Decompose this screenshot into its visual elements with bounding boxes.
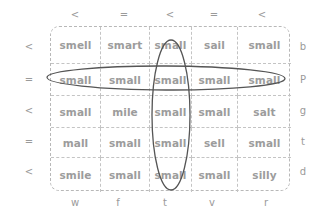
grid-cell-r5c4: small (192, 158, 238, 192)
grid-cell-r4c5: small (238, 128, 291, 158)
grid-cell-r1c5: small (238, 27, 291, 64)
left-label-2: = (19, 73, 39, 87)
grid-cell-r5c2: small (101, 158, 150, 192)
left-label-1: < (19, 40, 39, 54)
grid-cell-r2c2: small (101, 64, 150, 96)
grid-cell-r5c5: silly (238, 158, 291, 192)
grid-cell-r4c3: small (150, 128, 192, 158)
top-label-3: < (160, 8, 180, 22)
grid-cell-r1c2: smart (101, 27, 150, 64)
top-label-5: < (252, 8, 272, 22)
right-label-1: b (293, 40, 313, 54)
grid-cell-r3c5: salt (238, 96, 291, 128)
grid-cell-r2c4: small (192, 64, 238, 96)
grid-cell-r3c2: mile (101, 96, 150, 128)
grid-cell-r5c1: smile (51, 158, 101, 192)
grid-cell-r3c1: small (51, 96, 101, 128)
bottom-label-2: f (108, 196, 128, 210)
grid-cell-r2c5: small (238, 64, 291, 96)
bottom-label-4: v (202, 196, 222, 210)
bottom-label-5: r (256, 196, 276, 210)
right-label-5: d (293, 165, 313, 179)
grid-cell-r3c3: small (150, 96, 192, 128)
grid-cell-r1c3: small (150, 27, 192, 64)
grid-cell-r4c1: mall (51, 128, 101, 158)
right-label-4: t (293, 135, 313, 149)
word-grid: smell smart small sail small small small… (50, 26, 290, 191)
grid-cell-r4c2: small (101, 128, 150, 158)
top-label-4: = (204, 8, 224, 22)
grid-cell-r4c4: sell (192, 128, 238, 158)
left-label-3: < (19, 104, 39, 118)
left-label-4: = (19, 135, 39, 149)
right-label-3: g (293, 104, 313, 118)
grid-cell-r2c3: small (150, 64, 192, 96)
left-label-5: < (19, 165, 39, 179)
bottom-label-1: w (65, 196, 85, 210)
grid-cell-r3c4: small (192, 96, 238, 128)
grid-cell-r2c1: small (51, 64, 101, 96)
grid-cell-r1c1: smell (51, 27, 101, 64)
grid-cell-r1c4: sail (192, 27, 238, 64)
top-label-2: = (114, 8, 134, 22)
top-label-1: < (65, 8, 85, 22)
right-label-2: P (293, 73, 313, 87)
grid-cell-r5c3: small (150, 158, 192, 192)
bottom-label-3: t (155, 196, 175, 210)
